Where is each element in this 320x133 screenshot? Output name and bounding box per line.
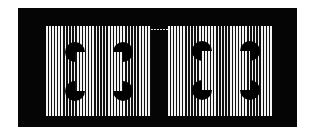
dotted-connector-line — [151, 29, 168, 30]
striped-panel-right — [168, 26, 272, 116]
striped-panel-left — [46, 26, 151, 116]
pacman-inducer-icon — [192, 41, 212, 61]
pacman-inducer-icon — [113, 42, 133, 62]
pacman-inducer-icon — [240, 80, 260, 100]
pacman-inducer-icon — [65, 42, 85, 62]
pacman-inducer-icon — [240, 41, 260, 61]
pacman-inducer-icon — [65, 81, 85, 101]
pacman-inducer-icon — [192, 80, 212, 100]
pacman-inducer-icon — [113, 81, 133, 101]
